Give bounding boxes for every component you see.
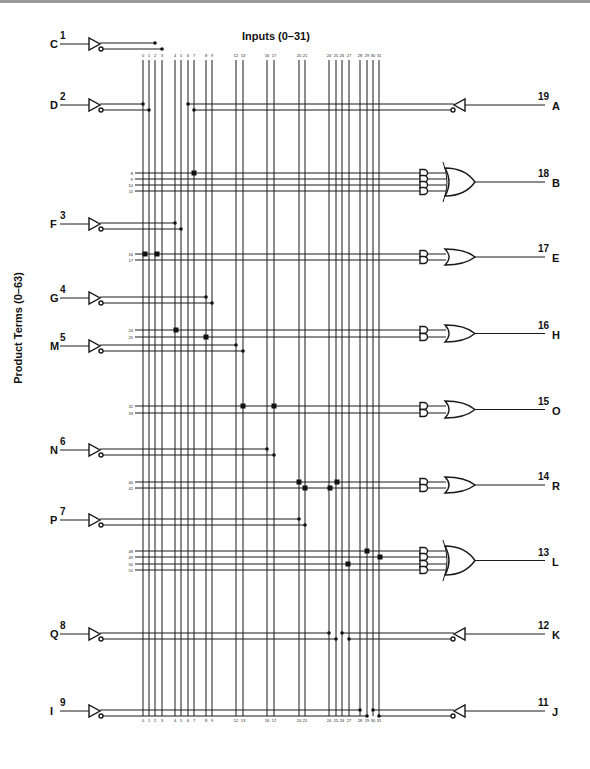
output-signal-label: O — [552, 405, 561, 417]
product-term-label: 41 — [129, 486, 134, 491]
column-label-top: 2 — [154, 53, 157, 58]
junction-dot — [303, 523, 307, 527]
junction-dot — [153, 41, 157, 45]
input-pin-number: 2 — [60, 91, 66, 102]
column-label-bottom: 26 — [340, 718, 345, 723]
product-term-label: 49 — [129, 555, 134, 560]
output-pin-number: 19 — [538, 91, 550, 102]
input-signal-label: F — [50, 218, 57, 230]
column-label-bottom: 12 — [234, 718, 239, 723]
product-term-label: 40 — [129, 480, 134, 485]
or-gate-icon — [445, 249, 475, 265]
inverter-bubble-icon — [99, 637, 103, 641]
inverter-bubble-icon — [451, 637, 455, 641]
and-gate-icon — [420, 410, 428, 417]
column-label-top: 0 — [142, 53, 145, 58]
column-label-top: 27 — [347, 53, 352, 58]
column-label-top: 16 — [265, 53, 270, 58]
or-gate-icon — [445, 168, 475, 196]
fuse-connection — [346, 562, 351, 567]
column-label-bottom: 0 — [142, 718, 145, 723]
input-pin-P: P7 — [50, 506, 307, 527]
buffer-triangle-icon — [454, 99, 465, 111]
column-label-top: 21 — [303, 53, 308, 58]
product-term-label: 24 — [129, 328, 134, 333]
column-label-bottom: 17 — [272, 718, 277, 723]
junction-dot — [147, 108, 151, 112]
junction-dot — [179, 227, 183, 231]
junction-dot — [241, 349, 245, 353]
input-pin-I: I9 — [50, 697, 369, 718]
input-pin-number: 1 — [60, 30, 66, 41]
column-label-top: 25 — [334, 53, 339, 58]
column-label-bottom: 16 — [265, 718, 270, 723]
output-pin-L: 13L — [346, 540, 560, 581]
output-pin-number: 15 — [538, 396, 550, 407]
and-gate-icon — [420, 403, 428, 410]
input-pin-C: C1 — [50, 30, 164, 51]
fuse-connection — [365, 549, 370, 554]
output-signal-label: J — [552, 706, 558, 718]
input-signal-label: I — [50, 705, 53, 717]
column-label-bottom: 4 — [174, 718, 177, 723]
output-pin-number: 14 — [538, 471, 550, 482]
fuse-connection — [378, 555, 383, 560]
column-label-top: 29 — [365, 53, 370, 58]
column-label-bottom: 20 — [297, 718, 302, 723]
or-gate-icon — [445, 477, 475, 493]
input-pin-D: D2 — [50, 91, 151, 112]
column-label-top: 13 — [241, 53, 246, 58]
column-label-top: 30 — [371, 53, 376, 58]
product-term-label: 25 — [129, 335, 134, 340]
junction-dot — [141, 102, 145, 106]
junction-dot — [234, 343, 238, 347]
output-pin-number: 13 — [538, 547, 550, 558]
column-label-bottom: 8 — [205, 718, 208, 723]
output-signal-label: B — [552, 177, 560, 189]
column-label-top: 17 — [272, 53, 277, 58]
column-label-top: 20 — [297, 53, 302, 58]
inverter-bubble-icon — [99, 227, 103, 231]
buffer-triangle-icon — [89, 514, 100, 526]
input-signal-label: N — [50, 444, 58, 456]
junction-dot — [365, 714, 369, 718]
buffer-triangle-icon — [454, 705, 465, 717]
input-pin-N: N6 — [50, 436, 276, 457]
product-term-label: 48 — [129, 549, 134, 554]
product-term-label: 50 — [129, 562, 134, 567]
fuse-connection — [297, 480, 302, 485]
input-signal-label: P — [50, 514, 57, 526]
inverter-bubble-icon — [99, 47, 103, 51]
fuse-connection — [241, 404, 246, 409]
column-label-top: 5 — [180, 53, 183, 58]
column-label-bottom: 13 — [241, 718, 246, 723]
fuse-connection — [328, 486, 333, 491]
junction-dot — [210, 301, 214, 305]
product-term-label: 8 — [131, 171, 134, 176]
fuse-connection — [192, 171, 197, 176]
input-pin-number: 5 — [60, 332, 66, 343]
column-label-bottom: 28 — [358, 718, 363, 723]
junction-dot — [160, 47, 164, 51]
product-term-label: 11 — [129, 189, 134, 194]
column-label-top: 4 — [174, 53, 177, 58]
buffer-triangle-icon — [89, 218, 100, 230]
and-gate-icon — [420, 327, 428, 334]
output-signal-label: R — [552, 480, 560, 492]
junction-dot — [297, 517, 301, 521]
column-label-bottom: 7 — [193, 718, 196, 723]
product-term-label: 16 — [129, 252, 134, 257]
buffer-triangle-icon — [454, 628, 465, 640]
column-label-top: 12 — [234, 53, 239, 58]
product-term-label: 51 — [129, 568, 134, 573]
input-pin-number: 6 — [60, 436, 66, 447]
input-pin-G: G4 — [50, 284, 214, 305]
and-gate-icon — [420, 188, 428, 195]
product-term-label: 17 — [129, 258, 134, 263]
buffer-triangle-icon — [89, 444, 100, 456]
and-gate-icon — [420, 554, 428, 561]
column-label-bottom: 31 — [377, 718, 382, 723]
output-pin-B: 18B — [192, 162, 561, 202]
column-label-bottom: 2 — [154, 718, 157, 723]
product-term-label: 33 — [129, 411, 134, 416]
